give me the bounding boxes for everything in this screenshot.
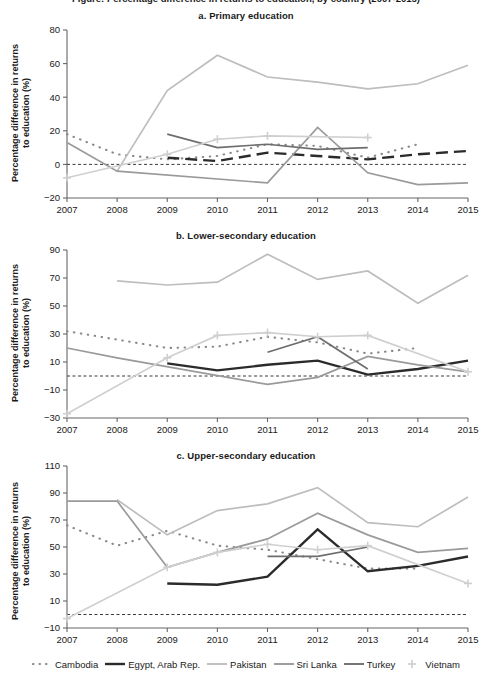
x-tick-label: 2015 [457,424,478,435]
x-tick-label: 2012 [307,424,328,435]
legend-item-turkey[interactable]: Turkey [344,659,396,670]
x-tick-label: 2011 [257,424,277,435]
x-tick-label: 2008 [107,204,128,215]
x-tick-label: 2008 [107,634,128,645]
panel-primary-education: a. Primary education Percentage differen… [0,6,492,220]
x-tick-label: 2011 [257,634,277,645]
y-tick-label: 110 [45,460,60,471]
panel-lower-secondary-education: b. Lower-secondary education Percentage … [0,226,492,440]
series-line-vietnam [67,544,468,618]
chart-legend: CambodiaEgypt, Arab Rep.PakistanSri Lank… [0,652,492,676]
y-tick-label: −20 [44,192,60,203]
legend-label: Egypt, Arab Rep. [128,659,200,670]
y-tick-label: −10 [44,622,60,633]
legend-swatch-solid-icon [344,659,364,669]
y-tick-label: 60 [49,58,60,69]
x-tick-label: 2010 [207,204,228,215]
x-tick-label: 2008 [107,424,128,435]
y-tick-label: 50 [49,300,60,311]
y-tick-label: 50 [49,541,60,552]
x-tick-label: 2012 [307,204,328,215]
x-tick-label: 2010 [207,424,228,435]
figure-root: Figure: Percentage difference in returns… [0,0,492,681]
series-line-pakistan [117,254,468,303]
y-tick-label: 10 [49,595,60,606]
x-tick-label: 2007 [56,634,77,645]
legend-label: Cambodia [55,659,98,670]
x-tick-label: 2014 [407,424,428,435]
x-tick-label: 2007 [56,204,77,215]
x-tick-label: 2007 [56,424,77,435]
x-tick-label: 2009 [157,634,178,645]
x-tick-label: 2010 [207,634,228,645]
y-tick-label: 70 [49,272,60,283]
legend-swatch-plus-icon [402,659,422,669]
legend-item-pakistan[interactable]: Pakistan [207,659,266,670]
y-tick-label: 90 [49,487,60,498]
y-tick-label: 20 [49,125,60,136]
panel-a-title: a. Primary education [0,6,492,21]
x-tick-label: 2014 [407,204,428,215]
legend-item-egypt-arab-rep-[interactable]: Egypt, Arab Rep. [105,659,200,670]
x-tick-label: 2015 [457,204,478,215]
x-tick-label: 2015 [457,634,478,645]
x-tick-label: 2011 [257,204,277,215]
y-tick-label: −30 [44,412,60,423]
y-tick-label: 0 [55,159,60,170]
series-line-pakistan [117,488,468,535]
x-tick-label: 2013 [357,424,378,435]
legend-swatch-dotted-icon [32,659,52,669]
panel-upper-secondary-education: c. Upper-secondary education Percentage … [0,446,492,652]
x-tick-label: 2009 [157,204,178,215]
legend-item-cambodia[interactable]: Cambodia [32,659,98,670]
series-line-sri-lanka [67,501,468,567]
legend-swatch-solid-icon [274,659,294,669]
y-tick-label: 10 [49,356,60,367]
y-tick-label: 80 [49,24,60,35]
legend-label: Pakistan [230,659,266,670]
x-tick-label: 2014 [407,634,428,645]
y-tick-label: 40 [49,92,60,103]
legend-item-vietnam[interactable]: Vietnam [402,659,460,670]
series-line-vietnam [67,333,468,414]
panel-c-title: c. Upper-secondary education [0,446,492,461]
series-line-egypt-arab-rep- [167,151,468,161]
legend-item-sri-lanka[interactable]: Sri Lanka [274,659,337,670]
legend-label: Turkey [367,659,396,670]
legend-label: Vietnam [425,659,460,670]
series-line-sri-lanka [67,348,468,384]
x-tick-label: 2013 [357,204,378,215]
y-tick-label: 90 [49,244,60,255]
legend-label: Sri Lanka [297,659,337,670]
y-tick-label: 30 [49,568,60,579]
x-tick-label: 2009 [157,424,178,435]
panel-b-title: b. Lower-secondary education [0,226,492,241]
legend-swatch-solid-icon [207,659,227,669]
y-tick-label: 30 [49,328,60,339]
series-line-egypt-arab-rep- [167,361,468,375]
x-tick-label: 2012 [307,634,328,645]
y-tick-label: −10 [44,384,60,395]
x-tick-label: 2013 [357,634,378,645]
y-tick-label: 70 [49,514,60,525]
legend-swatch-solid-icon [105,659,125,669]
